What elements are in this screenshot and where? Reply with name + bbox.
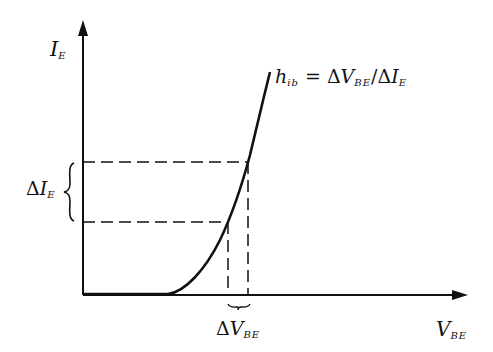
diagram-canvas [0, 0, 493, 352]
delta-vbe-delta: Δ [216, 317, 230, 339]
curve-label-e: E [399, 77, 407, 88]
x-axis-label-main: V [436, 317, 450, 341]
delta-vbe-brace-icon [228, 304, 250, 310]
curve-label-i: I [391, 65, 399, 87]
delta-ie-sub: E [47, 189, 55, 200]
y-axis-label-sub: E [58, 50, 66, 61]
delta-ie-label: ΔIE [26, 177, 56, 200]
y-axis-label: IE [50, 37, 67, 61]
curve-label-v: V [341, 65, 355, 87]
x-axis-label: VBE [436, 317, 467, 341]
x-axis-arrow-icon [452, 290, 468, 300]
delta-ie-brace-icon [64, 163, 74, 221]
curve-label-be: BE [354, 77, 371, 88]
curve-label-h: h [275, 65, 287, 87]
curve-label-equals: = [305, 65, 321, 87]
curve-label-delta-2: Δ [377, 65, 391, 87]
x-axis-label-sub: BE [450, 330, 467, 341]
delta-ie-delta: Δ [26, 177, 40, 199]
delta-vbe-main: V [230, 317, 244, 339]
curve-label: hib = ΔVBE/ΔIE [275, 65, 407, 88]
curve-label-delta-1: Δ [327, 65, 341, 87]
curve-label-ib: ib [287, 77, 299, 88]
y-axis-arrow-icon [78, 20, 88, 36]
delta-vbe-label: ΔVBE [216, 317, 260, 340]
characteristic-curve [83, 72, 270, 294]
delta-vbe-sub: BE [243, 329, 260, 340]
